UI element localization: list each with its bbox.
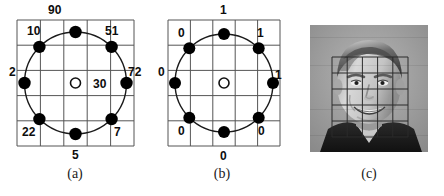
sample-point-left — [169, 77, 181, 89]
label-a-top-left: 10 — [27, 25, 40, 37]
label-a-bottom-right: 7 — [114, 126, 121, 138]
label-a-right: 72 — [128, 66, 141, 78]
sample-point-top — [218, 28, 230, 40]
face-photo-svg — [310, 25, 428, 152]
center-marker-o — [71, 78, 81, 88]
label-b-bottom: 0 — [220, 150, 227, 162]
sample-point-bottom-left — [183, 112, 195, 124]
sample-point-bottom — [218, 126, 230, 138]
panel-b: 1 0 1 0 1 0 0 0 (b) — [150, 0, 294, 196]
label-a-bottom: 5 — [72, 149, 79, 161]
label-a-bottom-left: 22 — [22, 126, 35, 138]
sample-point-bottom-right — [253, 112, 265, 124]
panel-c: (c) — [294, 0, 444, 196]
label-a-center-value: 30 — [93, 78, 106, 90]
face-photo — [310, 25, 428, 152]
sample-point-bottom-right — [105, 113, 117, 125]
label-b-top-right: 1 — [257, 27, 264, 39]
label-b-top: 1 — [220, 4, 227, 16]
sample-point-top-right — [253, 42, 265, 54]
label-b-top-left: 0 — [178, 27, 185, 39]
lbp-figure: 90 10 51 2 72 22 7 5 30 (a) — [0, 0, 444, 196]
label-a-top-right: 51 — [105, 25, 118, 37]
sample-point-left — [18, 77, 30, 89]
label-b-bottom-right: 0 — [258, 125, 265, 137]
caption-b: (b) — [150, 166, 294, 182]
label-a-left: 2 — [9, 66, 16, 78]
caption-a: (a) — [0, 166, 150, 182]
label-a-top: 90 — [48, 4, 61, 16]
label-b-bottom-left: 0 — [178, 125, 185, 137]
sample-point-top — [69, 26, 81, 38]
sample-point-bottom-left — [33, 113, 45, 125]
caption-c: (c) — [294, 166, 444, 182]
center-marker-o — [219, 78, 229, 88]
label-b-right: 1 — [275, 69, 282, 81]
sample-point-bottom — [69, 128, 81, 140]
sample-point-top-left — [183, 42, 195, 54]
sample-point-top-left — [33, 41, 45, 53]
label-b-left: 0 — [158, 66, 165, 78]
panel-a: 90 10 51 2 72 22 7 5 30 (a) — [0, 0, 150, 196]
sample-point-top-right — [105, 41, 117, 53]
